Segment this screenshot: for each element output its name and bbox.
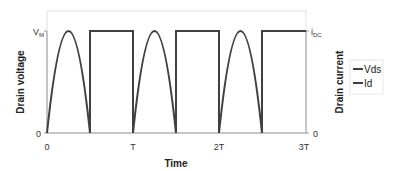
id-series [90,31,306,133]
y-left-axis-title: Drain voltage [15,50,26,114]
legend-id-label: Id [364,78,372,89]
x-axis-title: Time [164,158,188,169]
y-right-zero-label: 0 [313,129,318,139]
x-tick-3T: 3T [299,142,310,152]
legend: Vds Id [350,60,383,94]
vds-series [47,31,262,133]
x-tick-2T: 2T [214,142,225,152]
x-tick-0: 0 [44,142,49,152]
y-right-top-label: iDC [311,27,322,38]
y-left-top-label: VM [33,27,44,38]
y-left-zero-label: 0 [36,129,41,139]
waveform-chart: VM 0 iDC 0 0 T 2T 3T Time Drain voltage … [0,0,396,171]
y-right-axis-title: Drain current [334,50,345,113]
x-tick-T: T [130,142,136,152]
legend-vds-label: Vds [364,64,381,75]
